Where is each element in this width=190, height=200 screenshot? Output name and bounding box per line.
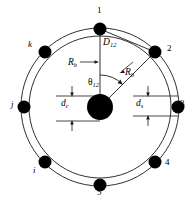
topology-diagram	[0, 0, 190, 200]
node-j[interactable]	[18, 101, 31, 114]
radius-label-Rb-right-sub: b	[131, 71, 134, 78]
spacing-label-ds-sub: s	[141, 102, 144, 109]
node-4[interactable]	[149, 156, 162, 169]
node-label-i: i	[33, 166, 36, 175]
node-label-1: 1	[97, 6, 102, 15]
node-label-2: 2	[167, 44, 172, 53]
angle-label-theta12: θ12	[88, 78, 99, 88]
angle-label-theta12-base: θ	[88, 77, 93, 87]
spacing-label-dc: dc	[61, 99, 69, 109]
distance-label-D12-base: D	[103, 37, 110, 47]
radius-label-Rb-right-base: R	[125, 67, 131, 77]
spacing-label-dc-sub: c	[66, 102, 69, 109]
distance-label-D12-sub: 12	[110, 41, 117, 48]
leader-arrowhead-Rb-left	[95, 60, 100, 64]
node-i[interactable]	[39, 156, 52, 169]
figure-container: 1 2 3 4 5 i j k D12 Rb Rb θ12 dc ds	[0, 0, 190, 200]
node-2[interactable]	[149, 46, 162, 59]
node-label-5: 5	[97, 188, 102, 197]
node-label-4: 4	[165, 158, 170, 167]
node-label-j: j	[11, 100, 14, 109]
node-k[interactable]	[39, 46, 52, 59]
radius-label-Rb-left-base: R	[68, 57, 74, 67]
angle-label-theta12-sub: 12	[93, 81, 100, 88]
distance-label-D12: D12	[103, 38, 116, 48]
node-1[interactable]	[94, 23, 107, 36]
central-hub[interactable]	[87, 94, 113, 120]
spacing-label-ds: ds	[136, 99, 143, 109]
radius-label-Rb-left-sub: b	[74, 61, 77, 68]
node-label-3: 3	[180, 99, 185, 108]
radius-label-Rb-right: Rb	[125, 68, 134, 78]
node-label-k: k	[28, 40, 32, 49]
radius-label-Rb-left: Rb	[68, 58, 77, 68]
